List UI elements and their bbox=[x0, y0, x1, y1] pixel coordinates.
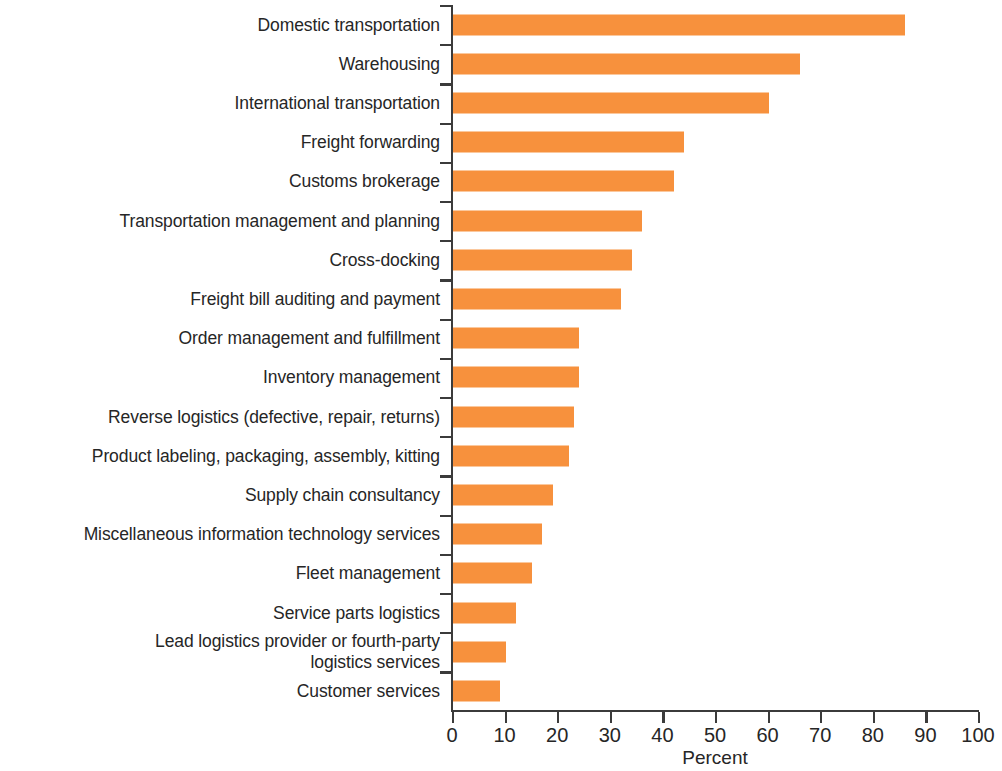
y-axis-tick bbox=[440, 671, 452, 673]
y-axis-tick bbox=[440, 397, 452, 399]
x-axis-tick-label: 70 bbox=[809, 724, 831, 747]
x-axis-title: Percent bbox=[452, 747, 978, 769]
x-axis-tick-label: 80 bbox=[862, 724, 884, 747]
x-axis-tick-label: 30 bbox=[599, 724, 621, 747]
bar-category-label: Customer services bbox=[0, 680, 440, 701]
y-axis-tick bbox=[440, 319, 452, 321]
y-axis-tick bbox=[440, 515, 452, 517]
bar-row: Reverse logistics (defective, repair, re… bbox=[0, 397, 1002, 436]
bar bbox=[453, 171, 674, 192]
bar-row: Lead logistics provider or fourth-party … bbox=[0, 632, 1002, 671]
x-axis-tick-label: 10 bbox=[493, 724, 515, 747]
bar-category-label: Reverse logistics (defective, repair, re… bbox=[0, 406, 440, 427]
bar bbox=[453, 406, 574, 427]
y-axis-tick bbox=[440, 44, 452, 46]
bar bbox=[453, 92, 769, 113]
bar-row: Cross-docking bbox=[0, 240, 1002, 279]
x-axis-tick bbox=[610, 712, 612, 723]
bar-category-label: Freight forwarding bbox=[0, 132, 440, 153]
y-axis-tick bbox=[440, 83, 452, 85]
y-axis-tick bbox=[440, 436, 452, 438]
x-axis-tick-label: 40 bbox=[651, 724, 673, 747]
x-axis-tick-label: 50 bbox=[704, 724, 726, 747]
bar-row: Product labeling, packaging, assembly, k… bbox=[0, 436, 1002, 475]
y-axis-tick bbox=[440, 593, 452, 595]
bar bbox=[453, 524, 542, 545]
bar-row: Fleet management bbox=[0, 554, 1002, 593]
bar bbox=[453, 328, 579, 349]
y-axis-tick bbox=[440, 632, 452, 634]
x-axis-tick bbox=[557, 712, 559, 723]
bar-category-label: Miscellaneous information technology ser… bbox=[0, 524, 440, 545]
y-axis-tick bbox=[440, 240, 452, 242]
y-axis-tick bbox=[440, 554, 452, 556]
bar-category-label: Freight bill auditing and payment bbox=[0, 288, 440, 309]
y-axis-tick bbox=[440, 279, 452, 281]
bar-category-label: Warehousing bbox=[0, 53, 440, 74]
bar bbox=[453, 680, 500, 701]
x-axis-tick-label: 0 bbox=[446, 724, 457, 747]
bar-row: Transportation management and planning bbox=[0, 201, 1002, 240]
bar-row: Freight forwarding bbox=[0, 123, 1002, 162]
x-axis-tick bbox=[505, 712, 507, 723]
x-axis-tick bbox=[662, 712, 664, 723]
bar bbox=[453, 602, 516, 623]
x-axis-tick bbox=[820, 712, 822, 723]
x-axis-tick bbox=[452, 712, 454, 723]
bar-chart: Domestic transportationWarehousingIntern… bbox=[0, 0, 1002, 771]
bar bbox=[453, 563, 532, 584]
y-axis-tick bbox=[440, 475, 452, 477]
y-axis-tick bbox=[440, 201, 452, 203]
x-axis-tick-label: 90 bbox=[914, 724, 936, 747]
bar-row: Service parts logistics bbox=[0, 593, 1002, 632]
bar-row: Customer services bbox=[0, 671, 1002, 710]
x-axis-tick bbox=[768, 712, 770, 723]
y-axis-tick bbox=[440, 358, 452, 360]
bar-category-label: Fleet management bbox=[0, 563, 440, 584]
bar bbox=[453, 210, 642, 231]
bar-category-label: Supply chain consultancy bbox=[0, 484, 440, 505]
bar-category-label: Inventory management bbox=[0, 367, 440, 388]
bar-category-label: Service parts logistics bbox=[0, 602, 440, 623]
y-axis-tick bbox=[440, 123, 452, 125]
bar-row: Supply chain consultancy bbox=[0, 475, 1002, 514]
bar-category-label: International transportation bbox=[0, 92, 440, 113]
bar-category-label: Customs brokerage bbox=[0, 171, 440, 192]
bar bbox=[453, 484, 553, 505]
bar bbox=[453, 445, 569, 466]
plot-area: Domestic transportationWarehousingIntern… bbox=[0, 0, 1002, 771]
bar-category-label: Transportation management and planning bbox=[0, 210, 440, 231]
x-axis-tick bbox=[925, 712, 927, 723]
bar bbox=[453, 641, 506, 662]
bar-row: International transportation bbox=[0, 83, 1002, 122]
bar-category-label: Domestic transportation bbox=[0, 14, 440, 35]
bar bbox=[453, 14, 905, 35]
bar bbox=[453, 249, 632, 270]
x-axis-tick bbox=[715, 712, 717, 723]
x-axis-tick-label: 100 bbox=[961, 724, 994, 747]
bar bbox=[453, 367, 579, 388]
bar-row: Freight bill auditing and payment bbox=[0, 279, 1002, 318]
bar-row: Order management and fulfillment bbox=[0, 319, 1002, 358]
bar-row: Miscellaneous information technology ser… bbox=[0, 515, 1002, 554]
bar-category-label: Lead logistics provider or fourth-party … bbox=[0, 631, 440, 673]
x-axis-tick-label: 20 bbox=[546, 724, 568, 747]
bar bbox=[453, 53, 800, 74]
x-axis-tick bbox=[873, 712, 875, 723]
bar-category-label: Order management and fulfillment bbox=[0, 328, 440, 349]
bar-category-label: Cross-docking bbox=[0, 249, 440, 270]
bar bbox=[453, 132, 684, 153]
bar-row: Domestic transportation bbox=[0, 5, 1002, 44]
bar-row: Warehousing bbox=[0, 44, 1002, 83]
y-axis-tick bbox=[440, 5, 452, 7]
bar bbox=[453, 288, 621, 309]
bar-row: Customs brokerage bbox=[0, 162, 1002, 201]
x-axis-tick bbox=[978, 712, 980, 723]
y-axis-tick bbox=[440, 162, 452, 164]
bar-row: Inventory management bbox=[0, 358, 1002, 397]
x-axis-tick-label: 60 bbox=[756, 724, 778, 747]
bar-category-label: Product labeling, packaging, assembly, k… bbox=[0, 445, 440, 466]
